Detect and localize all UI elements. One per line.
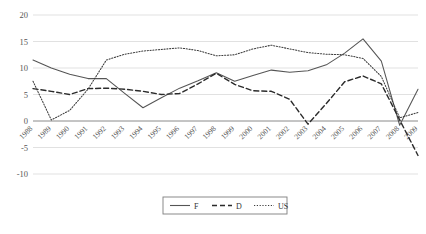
x-tick-2001: 2001 [256,124,273,141]
x-tick-1998: 1998 [201,124,218,141]
x-tick-1989: 1989 [36,124,53,141]
gridlines [33,15,418,174]
x-tick-1997: 1997 [182,124,199,141]
series-line-US [33,45,418,120]
x-tick-1995: 1995 [146,124,163,141]
x-axis-tick-labels: 1988198919901991199219931994199519961997… [17,124,419,141]
figure-caption [0,227,426,234]
y-axis-tick-labels: 20151050-5-10 [17,10,28,179]
x-tick-2004: 2004 [311,124,328,141]
y-tick--5: -5 [21,143,28,153]
x-tick-1994: 1994 [127,124,144,141]
x-tick-1993: 1993 [109,124,126,141]
x-tick-1990: 1990 [54,124,71,141]
x-tick-1996: 1996 [164,124,181,141]
x-tick-2003: 2003 [292,124,309,141]
y-tick-10: 10 [20,63,29,73]
x-tick-1991: 1991 [72,124,89,141]
x-tick-2005: 2005 [329,124,346,141]
y-tick--10: -10 [17,169,28,179]
x-tick-2008: 2008 [384,124,401,141]
legend-label-US: US [278,202,288,211]
legend-label-F: F [194,202,199,211]
x-tick-2002: 2002 [274,124,291,141]
y-tick-20: 20 [20,10,29,20]
x-tick-1988: 1988 [17,124,34,141]
chart-legend: FDUS [163,197,288,214]
x-tick-2007: 2007 [366,124,383,141]
x-tick-1992: 1992 [91,124,108,141]
x-tick-2006: 2006 [347,124,364,141]
x-tick-1999: 1999 [219,124,236,141]
x-tick-2000: 2000 [237,124,254,141]
line-chart: 20151050-5-10 19881989199019911992199319… [0,0,426,234]
x-tick-2009: 2009 [402,124,419,141]
y-tick-5: 5 [24,90,28,100]
series-line-F [33,39,418,125]
chart-canvas: 20151050-5-10 19881989199019911992199319… [0,0,426,220]
y-tick-15: 15 [20,37,29,47]
legend-label-D: D [236,202,242,211]
